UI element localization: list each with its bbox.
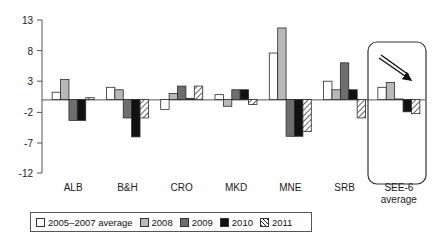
bar-mne-2009 bbox=[286, 100, 294, 137]
x-tick-label: SEE-6average bbox=[381, 182, 418, 205]
bar-srb-2008 bbox=[332, 90, 340, 100]
bar-b-h-2010 bbox=[132, 100, 140, 137]
x-tick-label: MNE bbox=[279, 182, 302, 193]
legend-label: 2009 bbox=[192, 217, 213, 228]
bar-mkd-2011 bbox=[249, 100, 257, 105]
legend-label: 2010 bbox=[232, 217, 253, 228]
bar-cro-2008 bbox=[169, 93, 177, 99]
y-tick-label: 8 bbox=[27, 46, 33, 57]
legend-item[interactable]: 2005–2007 average bbox=[36, 217, 133, 228]
down-right-arrow-icon bbox=[379, 55, 409, 78]
bar-chart: 13 8 3 -2 -7 -12 ALBB&HCROMKDMNESRBSEE-6… bbox=[0, 0, 435, 244]
legend-item[interactable]: 2010 bbox=[220, 217, 253, 228]
legend-item[interactable]: 2009 bbox=[180, 217, 213, 228]
bar-mne-2008 bbox=[278, 28, 286, 100]
bar-alb-2005-2007-average bbox=[52, 92, 60, 99]
x-tick-label: SRB bbox=[334, 182, 355, 193]
y-tick-label: 3 bbox=[27, 76, 33, 87]
bar-srb-2009 bbox=[340, 63, 348, 100]
bar-cro-2010 bbox=[186, 98, 194, 99]
bar-b-h-2011 bbox=[140, 100, 148, 118]
bar-see-6-average-2005-2007-average bbox=[378, 87, 386, 99]
bar-srb-2010 bbox=[349, 90, 357, 100]
legend-label: 2008 bbox=[152, 217, 173, 228]
legend-swatch-2011 bbox=[260, 218, 269, 227]
bar-alb-2010 bbox=[77, 100, 85, 121]
bar-cro-2009 bbox=[178, 86, 186, 99]
x-tick-label: B&H bbox=[117, 182, 138, 193]
y-tick-labels: 13 8 3 -2 -7 -12 bbox=[19, 15, 34, 179]
bars-layer bbox=[52, 28, 420, 137]
y-tick-marks bbox=[37, 20, 42, 173]
x-tick-label: MKD bbox=[225, 182, 247, 193]
legend-swatch-2009 bbox=[180, 218, 189, 227]
legend-swatch-2008 bbox=[140, 218, 149, 227]
bar-cro-2011 bbox=[194, 86, 202, 99]
y-tick-label: -12 bbox=[19, 168, 34, 179]
bar-alb-2011 bbox=[86, 98, 94, 100]
bar-mne-2010 bbox=[294, 100, 302, 137]
bar-mne-2011 bbox=[303, 100, 311, 132]
y-tick-label: 13 bbox=[22, 15, 34, 26]
x-tick-labels: ALBB&HCROMKDMNESRBSEE-6average bbox=[64, 182, 418, 205]
legend-swatch-2010 bbox=[220, 218, 229, 227]
legend: 2005–2007 average 2008 2009 2010 2011 bbox=[30, 212, 312, 232]
legend-item[interactable]: 2011 bbox=[260, 217, 292, 228]
bar-alb-2009 bbox=[69, 100, 77, 121]
bar-srb-2011 bbox=[357, 100, 365, 118]
bar-mkd-2005-2007-average bbox=[215, 95, 223, 100]
bar-srb-2005-2007-average bbox=[324, 81, 332, 99]
y-tick-label: -7 bbox=[24, 138, 33, 149]
bar-mkd-2009 bbox=[232, 90, 240, 100]
legend-item[interactable]: 2008 bbox=[140, 217, 173, 228]
bar-mkd-2010 bbox=[240, 90, 248, 100]
bar-b-h-2008 bbox=[115, 90, 123, 100]
bar-see-6-average-2010 bbox=[403, 100, 411, 112]
x-tick-label: ALB bbox=[64, 182, 83, 193]
x-tick-label: CRO bbox=[171, 182, 193, 193]
bar-mne-2005-2007-average bbox=[269, 53, 277, 100]
bar-cro-2005-2007-average bbox=[161, 100, 169, 110]
legend-label: 2005–2007 average bbox=[48, 217, 133, 228]
bar-see-6-average-2011 bbox=[411, 100, 419, 114]
chart-canvas: 13 8 3 -2 -7 -12 ALBB&HCROMKDMNESRBSEE-6… bbox=[0, 0, 435, 244]
y-tick-label: -2 bbox=[24, 107, 33, 118]
bar-b-h-2005-2007-average bbox=[106, 87, 114, 99]
legend-swatch-2005-2007-average bbox=[36, 218, 45, 227]
bar-b-h-2009 bbox=[123, 100, 131, 118]
bar-see-6-average-2009 bbox=[395, 99, 403, 100]
legend-label: 2011 bbox=[272, 217, 292, 228]
bar-see-6-average-2008 bbox=[386, 82, 394, 99]
bar-mkd-2008 bbox=[223, 100, 231, 107]
bar-alb-2008 bbox=[61, 79, 69, 99]
